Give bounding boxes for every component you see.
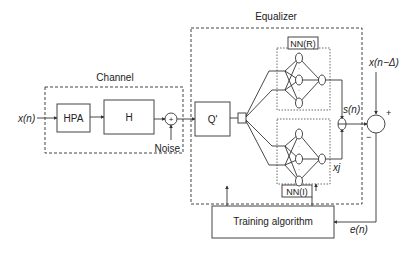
svg-text:·: · (298, 143, 300, 149)
nn-imag-boundary (277, 119, 330, 184)
comparator-plus: + (386, 108, 391, 118)
noise-label: Noise (154, 143, 180, 154)
svg-text:·: · (298, 87, 300, 93)
svg-text:·: · (298, 166, 300, 172)
error-label: e(n) (350, 224, 368, 235)
h-label: H (125, 112, 132, 123)
error-comparator (367, 115, 385, 133)
training-label: Training algorithm (233, 216, 313, 227)
comparator-minus: − (366, 132, 371, 142)
equalizer-title: Equalizer (255, 11, 297, 22)
nn-real-network: · · (269, 53, 326, 108)
hpa-label: HPA (64, 113, 84, 124)
svg-text:·: · (298, 65, 300, 71)
equalizer-block-diagram: Equalizer Channel x(n) HPA H + Noise Q' … (0, 0, 412, 255)
reference-label: x(n−Δ) (368, 57, 399, 68)
channel-title: Channel (96, 72, 133, 83)
imag-output-label: xj (332, 162, 341, 173)
adder-plus: + (169, 115, 174, 124)
quantizer-label: Q' (208, 114, 218, 125)
nn-imag-network: · · (269, 129, 326, 186)
nn-imag-label: NN(I) (286, 187, 308, 197)
nn-real-label: NN(R) (290, 39, 316, 49)
input-label: x(n) (17, 113, 35, 124)
output-label: s(n) (343, 104, 360, 115)
